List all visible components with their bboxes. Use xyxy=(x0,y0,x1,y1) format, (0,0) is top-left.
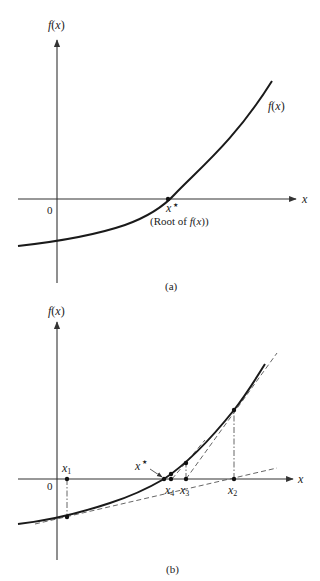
tangent-line-x1 xyxy=(35,468,277,524)
x-axis-label-a: x xyxy=(301,192,308,206)
curve-label-a: f(x) xyxy=(268,99,285,113)
label-x1: x1 xyxy=(61,461,71,476)
origin-label-a: 0 xyxy=(47,204,53,216)
point-x4 xyxy=(169,477,173,481)
caption-a: (a) xyxy=(165,280,178,293)
point-f-x1 xyxy=(65,515,69,519)
figure-canvas: f(x) x 0 f(x) x ★ (Root of f(x)) (a) f(x… xyxy=(0,0,320,581)
label-x3: x3 xyxy=(179,483,189,498)
caption-b: (b) xyxy=(166,563,179,576)
label-x4: x4 xyxy=(164,483,174,498)
function-curve-a xyxy=(18,81,272,246)
root-pointer-arrow xyxy=(150,469,162,477)
function-curve-b xyxy=(18,364,265,524)
point-x2 xyxy=(232,477,236,481)
root-note-a: (Root of f(x)) xyxy=(150,215,209,228)
point-x1 xyxy=(65,477,69,481)
panel-a: f(x) x 0 f(x) x ★ (Root of f(x)) (a) xyxy=(18,18,308,293)
root-label-b: x xyxy=(134,459,141,473)
origin-label-b: 0 xyxy=(47,480,53,492)
point-f-x2 xyxy=(232,408,236,412)
y-axis-label-a: f(x) xyxy=(48,18,65,32)
tangent-line-x2 xyxy=(186,353,277,479)
point-x3 xyxy=(184,477,188,481)
point-f-x4 xyxy=(169,472,173,476)
x-axis-label-b: x xyxy=(297,472,304,486)
y-axis-label-b: f(x) xyxy=(48,304,65,318)
root-point-b xyxy=(162,477,166,481)
root-star-b: ★ xyxy=(142,459,147,465)
panel-b: f(x) x 0 x1 x2 x3 xyxy=(18,304,304,576)
label-x2: x2 xyxy=(227,483,237,498)
root-star-a: ★ xyxy=(173,202,178,208)
point-f-x3 xyxy=(184,461,188,465)
root-label-a: x xyxy=(165,201,172,215)
